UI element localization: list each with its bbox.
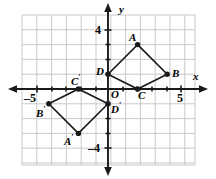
x-axis-label: x [193, 71, 199, 82]
origin-label: O [111, 89, 119, 100]
vertex-label-c: C [138, 90, 145, 101]
vertex-label-b: B [172, 68, 179, 79]
x-axis-arrow-left [8, 85, 17, 93]
vertex-label-a-prime: A′ [64, 134, 74, 147]
y-axis-arrow-up [104, 3, 112, 12]
quadrilateral-abcd-prime [49, 89, 108, 133]
plot-canvas [0, 0, 216, 179]
vertex-dot-b-prime [46, 101, 51, 106]
prime-mark-b: ′ [43, 105, 45, 114]
x-axis-arrow-right [199, 85, 208, 93]
prime-mark-d: ′ [119, 101, 121, 110]
vertex-dot-c-prime [76, 86, 81, 91]
vertex-dot-b [165, 72, 170, 77]
vertex-label-d: D [96, 66, 104, 77]
prime-mark-c: ′ [78, 73, 80, 82]
vertex-dot-d-prime [105, 101, 110, 106]
x-tick-label-neg5: –5 [24, 92, 36, 104]
vertex-label-a: A [129, 32, 136, 43]
vertex-dot-d [105, 72, 110, 77]
vertex-label-c-prime: C′ [71, 74, 81, 87]
x-tick-label-pos5: 5 [177, 92, 183, 104]
vertex-label-d-prime-base: D [111, 103, 119, 115]
quadrilateral-abcd [108, 45, 167, 89]
vertex-label-b-prime: B′ [36, 106, 46, 119]
y-tick-label-pos4: 4 [95, 24, 101, 36]
y-axis-label: y [119, 4, 124, 15]
prime-mark-a: ′ [71, 133, 73, 142]
coordinate-plane-figure: y x –5 5 4 –4 O A B C D A′ B′ C′ D′ [0, 0, 216, 179]
vertex-label-d-prime: D′ [111, 102, 121, 115]
y-tick-label-neg4: –4 [88, 142, 100, 154]
vertex-dot-a-prime [76, 131, 81, 136]
y-axis-arrow-down [104, 167, 112, 176]
